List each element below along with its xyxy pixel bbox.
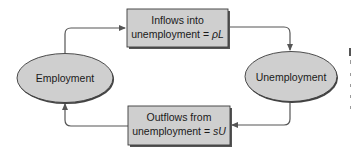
outflows-line1: Outflows from <box>147 111 212 123</box>
arrow-employment-to-inflows <box>65 28 125 53</box>
outflows-line2-prefix: unemployment = <box>132 125 213 137</box>
inflows-variable: ρL <box>211 28 224 40</box>
unemployment-node: Unemployment <box>245 52 338 104</box>
outflows-variable: sU <box>213 125 226 137</box>
outflows-line2: unemployment = sU <box>132 125 226 137</box>
inflows-line1: Inflows into <box>151 14 204 26</box>
unemployment-label: Unemployment <box>256 71 327 83</box>
arrow-unemployment-to-outflows <box>232 102 290 125</box>
employment-node: Employment <box>17 54 114 105</box>
flow-diagram: Inflows into unemployment = ρL Outflows … <box>0 0 357 151</box>
arrow-outflows-to-employment <box>65 104 128 126</box>
outflows-box: Outflows from unemployment = sU <box>128 106 232 147</box>
page-edge-marks <box>349 48 351 109</box>
inflows-line2: unemployment = ρL <box>131 28 224 40</box>
employment-label: Employment <box>36 72 94 84</box>
arrow-inflows-to-unemployment <box>229 27 290 50</box>
inflows-box: Inflows into unemployment = ρL <box>127 9 230 49</box>
inflows-line2-prefix: unemployment = <box>131 28 212 40</box>
